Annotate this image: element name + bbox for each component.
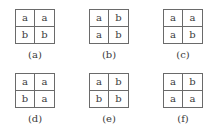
panel-label: (e) [87,113,131,124]
cell-top-left: a [164,74,183,91]
grid-2x2: a b a b [89,9,129,44]
cell-bottom-left: b [90,91,109,108]
cell-bottom-right: b [109,91,128,108]
cell-top-left: a [164,10,183,27]
grid-2x2: a b a a [163,73,203,108]
cell-bottom-right: b [183,27,202,44]
cell-top-right: b [109,74,128,91]
cell-bottom-right: a [35,91,54,108]
cell-bottom-left: a [164,27,183,44]
panel-label: (a) [13,49,57,60]
grid-2x2: a a b b [15,9,55,44]
panel-label: (d) [13,113,57,124]
cell-bottom-right: a [183,91,202,108]
cell-top-right: b [183,74,202,91]
cell-top-right: b [109,10,128,27]
cell-bottom-left: a [164,91,183,108]
cell-top-right: a [35,74,54,91]
grid-2x2: a a a b [163,9,203,44]
cell-top-right: a [35,10,54,27]
grid-2x2: a a b a [15,73,55,108]
panel-label: (c) [161,49,205,60]
cell-bottom-right: b [35,27,54,44]
cell-top-left: a [90,74,109,91]
grid-2x2: a b b b [89,73,129,108]
cell-bottom-right: b [109,27,128,44]
cell-top-left: a [90,10,109,27]
panel-label: (b) [87,49,131,60]
cell-top-left: a [16,10,35,27]
cell-top-right: a [183,10,202,27]
cell-bottom-left: b [16,27,35,44]
cell-bottom-left: b [16,91,35,108]
cell-top-left: a [16,74,35,91]
panel-label: (f) [161,113,205,124]
cell-bottom-left: a [90,27,109,44]
